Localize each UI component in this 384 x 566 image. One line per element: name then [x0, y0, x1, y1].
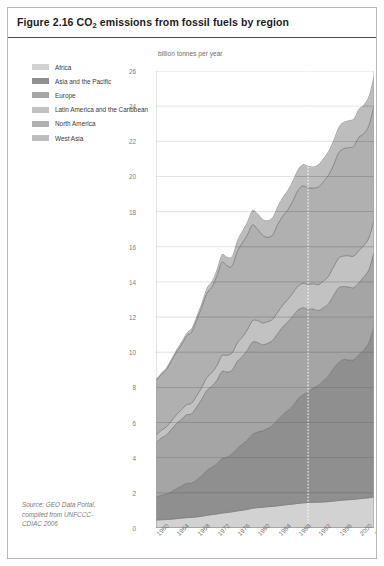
source-note: Source: GEO Data Portal, compiled from U… [22, 500, 96, 528]
x-axis-tick: 1984 [277, 522, 292, 537]
x-axis-tick: 1972 [216, 522, 231, 537]
x-axis-tick: 1996 [338, 522, 353, 537]
x-axis-tick: 1960 [155, 522, 170, 537]
x-axis-tick: 2000 [358, 522, 373, 537]
figure-card: Figure 2.16 CO2 emissions from fossil fu… [7, 7, 377, 559]
x-axis-tick: 1976 [236, 522, 251, 537]
x-axis-tick-labels: 1960196419681972197619801984198819921996… [8, 8, 377, 559]
x-axis-tick: 2003 [373, 522, 377, 537]
x-axis-tick: 1992 [317, 522, 332, 537]
x-axis-tick: 1964 [175, 522, 190, 537]
x-axis-tick: 1988 [297, 522, 312, 537]
x-axis-tick: 1968 [196, 522, 211, 537]
source-line-1: Source: GEO Data Portal, [22, 500, 96, 509]
source-line-2: compiled from UNFCCC- [22, 510, 96, 519]
x-axis-tick: 1980 [256, 522, 271, 537]
source-line-3: CDIAC 2006 [22, 519, 96, 528]
